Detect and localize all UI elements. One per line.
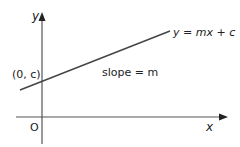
linear-graph-diagram: y x O y = mx + c (0, c) slope = m	[0, 0, 240, 147]
y-axis-label: y	[31, 9, 40, 23]
y-axis-arrow-icon	[39, 12, 46, 21]
origin-label: O	[30, 121, 39, 134]
intercept-label: (0, c)	[12, 68, 41, 81]
x-axis-arrow-icon	[219, 114, 228, 121]
x-axis-label: x	[205, 120, 214, 134]
equation-label: y = mx + c	[172, 26, 235, 39]
slope-label: slope = m	[102, 66, 158, 79]
